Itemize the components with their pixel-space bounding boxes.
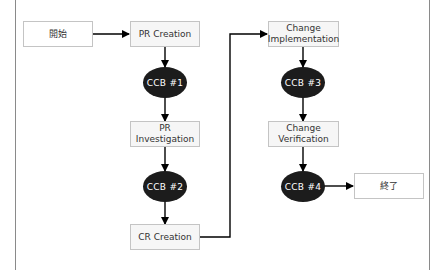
arrow-cr-creation-to-change-implementation [199, 34, 267, 237]
node-pr-creation-label: PR Creation [139, 29, 192, 40]
node-ccb2: CCB #2 [143, 171, 187, 202]
node-pr-creation: PR Creation [130, 21, 200, 47]
node-ccb3-label: CCB #3 [285, 78, 322, 88]
node-start: 開始 [23, 21, 93, 47]
node-ccb1: CCB #1 [143, 67, 187, 98]
node-ccb1-label: CCB #1 [147, 78, 184, 88]
node-cr-creation: CR Creation [130, 224, 200, 250]
node-change-implementation: Change Implementation [268, 21, 339, 47]
node-ccb2-label: CCB #2 [147, 182, 184, 192]
node-ccb4: CCB #4 [281, 171, 325, 202]
node-pr-investigation: PR Investigation [130, 121, 200, 147]
node-ccb4-label: CCB #4 [285, 182, 322, 192]
node-ccb3: CCB #3 [281, 67, 325, 98]
node-change-verification-label: Change Verification [278, 123, 329, 145]
node-change-implementation-label: Change Implementation [268, 23, 339, 45]
node-end-label: 終了 [380, 181, 398, 192]
node-end: 終了 [354, 173, 424, 199]
node-start-label: 開始 [49, 29, 67, 40]
node-pr-investigation-label: PR Investigation [131, 123, 199, 145]
node-change-verification: Change Verification [268, 121, 339, 147]
node-cr-creation-label: CR Creation [138, 232, 191, 243]
